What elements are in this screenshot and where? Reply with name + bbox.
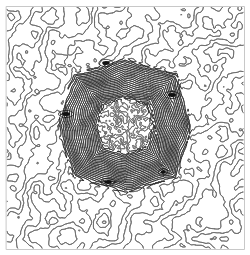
figure-container	[0, 0, 250, 255]
turing-pattern-canvas	[0, 0, 250, 255]
